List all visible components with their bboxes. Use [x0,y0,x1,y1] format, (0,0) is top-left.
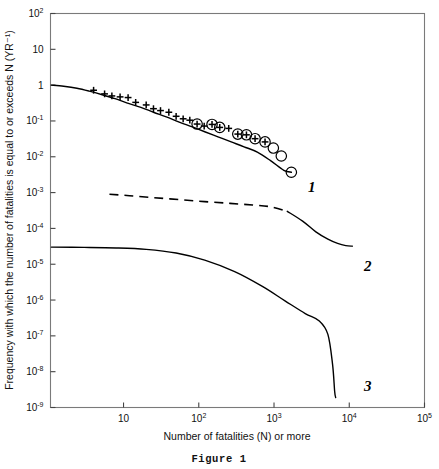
curve-3-path [51,247,335,397]
y-tick-label-3: 10-1 [26,114,43,126]
x-tick-label-0: 10 [118,413,130,424]
x-tick-label-1: 102 [191,412,206,424]
y-axis-ticks [51,14,56,408]
figure-container: 10210110-110-210-310-410-510-610-710-810… [0,0,439,469]
y-axis-tick-labels: 10210110-110-210-310-410-510-610-710-810… [26,7,44,413]
y-tick-label-6: 10-4 [26,222,43,234]
curve-label-1: 1 [308,179,316,195]
y-tick-label-9: 10-7 [26,329,43,341]
circled-plus-marker-8 [276,151,286,161]
figure-caption: Figure 1 [191,453,246,465]
x-tick-label-2: 103 [267,412,282,424]
y-tick-label-4: 10-2 [26,150,43,162]
circled-plus-marker-7 [268,143,278,153]
y-tick-label-2: 1 [38,80,44,91]
x-axis-ticks [124,403,425,408]
y-tick-label-10: 10-8 [26,365,43,377]
curve-label-2: 2 [363,258,372,274]
curve-1-path [51,85,291,172]
plot-frame [51,14,425,408]
y-tick-label-0: 102 [28,7,43,19]
curve-label-3: 3 [363,378,372,394]
y-tick-label-7: 10-5 [26,258,43,270]
y-tick-label-11: 10-9 [26,401,43,413]
x-axis-tick-labels: 10102103104105 [118,412,432,424]
y-tick-label-8: 10-6 [26,294,43,306]
curve-2-solid-path [287,211,352,246]
x-tick-label-3: 104 [342,412,357,424]
curve-2-dashed-path [109,194,287,211]
y-tick-label-1: 10 [32,44,44,55]
y-tick-label-5: 10-3 [26,186,43,198]
log-log-frequency-chart: 10210110-110-210-310-410-510-610-710-810… [0,0,439,469]
x-axis-title: Number of fatalities (N) or more [163,430,310,442]
y-axis-title: Frequency with which the number of fatal… [3,30,15,390]
x-tick-label-4: 105 [417,412,432,424]
